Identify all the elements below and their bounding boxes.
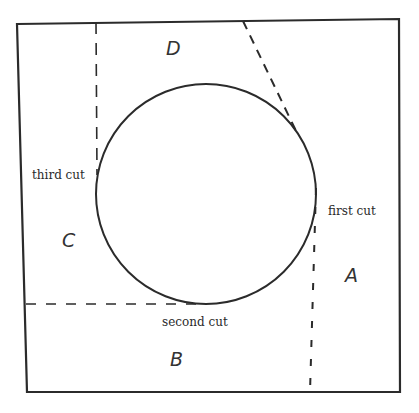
first-cut-label: first cut	[328, 204, 376, 218]
cut-diagram: third cut first cut second cut A B C D	[0, 0, 419, 413]
second-cut-label: second cut	[162, 315, 228, 329]
region-c-label: C	[62, 229, 76, 251]
region-a-label: A	[343, 264, 358, 286]
region-d-label: D	[166, 37, 181, 59]
first-cut-line	[243, 21, 298, 135]
third-cut-line	[96, 22, 97, 175]
third-cut-label: third cut	[32, 168, 85, 182]
diagram-canvas: third cut first cut second cut A B C D	[0, 0, 419, 413]
circle-cutout	[96, 84, 316, 304]
region-b-label: B	[170, 348, 183, 370]
